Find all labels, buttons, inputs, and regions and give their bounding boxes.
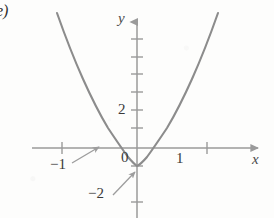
axes-group (32, 22, 258, 218)
leader-neg-two (113, 172, 135, 195)
vertex-label-negative-two: −2 (88, 186, 104, 201)
leader-neg-one (72, 147, 99, 163)
x-axis-label: x (252, 152, 259, 167)
y-axis-label: y (118, 11, 125, 26)
part-label: e) (0, 3, 8, 19)
x-intercept-label-negative-one: −1 (50, 157, 66, 172)
parabola-figure: e) y x 2 0 1 −1 −2 (0, 0, 274, 218)
y-tick-label-2: 2 (118, 102, 126, 117)
x-intercept-label-one: 1 (176, 151, 184, 166)
origin-label: 0 (121, 150, 129, 165)
graph-canvas (0, 0, 274, 218)
